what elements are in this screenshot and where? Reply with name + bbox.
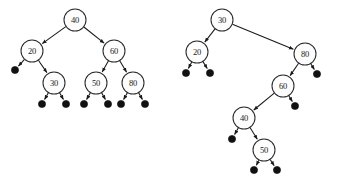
tree-node: 20	[186, 41, 208, 63]
tree-edge	[203, 62, 207, 69]
nil-leaf-node	[273, 166, 280, 173]
tree-edge	[102, 93, 106, 100]
nil-leaf-node	[141, 100, 148, 107]
tree-edge	[84, 27, 104, 43]
tree-edge	[139, 93, 143, 100]
tree-node: 50	[85, 72, 107, 94]
nil-leaf-node	[38, 100, 45, 107]
node-key-label: 40	[240, 113, 248, 123]
tree-edge	[290, 63, 298, 75]
node-key-label: 20	[28, 46, 36, 56]
nil-leaf-node	[182, 69, 189, 76]
node-key-label: 30	[50, 78, 58, 88]
node-key-label: 80	[129, 78, 137, 88]
tree-edge	[205, 29, 215, 42]
tree-node: 40	[233, 107, 255, 129]
nil-leaf-node	[206, 69, 213, 76]
tree-edge	[60, 93, 64, 100]
tree-edge	[45, 93, 49, 100]
tree-edge	[42, 27, 66, 44]
node-key-label: 20	[193, 47, 201, 57]
nil-leaf-node	[313, 70, 320, 77]
nil-leaf-node	[228, 135, 235, 142]
nil-leaf-node	[62, 100, 69, 107]
tree-edge	[102, 61, 108, 72]
tree-node: 60	[272, 75, 294, 97]
tree-node: 20	[21, 40, 43, 62]
tree-edge	[38, 60, 46, 72]
tree-edge	[124, 93, 128, 100]
tree-edge	[232, 24, 293, 49]
tree-node: 50	[253, 139, 275, 161]
tree-node: 80	[294, 43, 316, 65]
nil-leaf-node	[291, 102, 298, 109]
nil-leaf-node	[11, 66, 18, 73]
tree-edge	[250, 128, 257, 140]
tree-edge	[270, 159, 274, 165]
tree-edge	[256, 160, 259, 165]
figure-canvas: 402060305080302080604050	[0, 0, 337, 183]
nodes-layer: 402060305080302080604050	[21, 9, 316, 161]
node-key-label: 30	[218, 15, 226, 25]
nil-leaf-node	[80, 100, 87, 107]
node-key-label: 40	[71, 15, 79, 25]
tree-edge	[188, 62, 191, 68]
nil-leaf-node	[250, 166, 257, 173]
tree-node: 40	[64, 9, 86, 31]
tree-edge	[120, 61, 127, 72]
node-key-label: 60	[279, 81, 287, 91]
tree-edge	[18, 59, 24, 66]
node-key-label: 50	[92, 78, 100, 88]
tree-node: 80	[122, 72, 144, 94]
tree-edge	[289, 96, 293, 102]
tree-edge	[235, 128, 239, 135]
tree-edge	[87, 93, 91, 100]
node-key-label: 80	[301, 49, 309, 59]
tree-node: 30	[211, 9, 233, 31]
nil-leaf-node	[117, 100, 124, 107]
tree-edge	[254, 93, 275, 110]
tree-node: 30	[43, 72, 65, 94]
nil-leaf-node	[104, 100, 111, 107]
binary-tree-diagram: 402060305080302080604050	[0, 0, 337, 183]
node-key-label: 60	[110, 46, 118, 56]
node-key-label: 50	[260, 145, 268, 155]
tree-edge	[311, 64, 315, 70]
tree-node: 60	[103, 40, 125, 62]
